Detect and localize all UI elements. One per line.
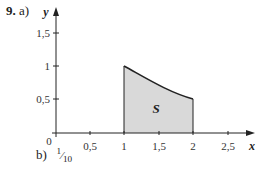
- part-b: b) 1⁄10: [36, 146, 72, 164]
- fraction-numerator: 1: [57, 146, 62, 156]
- y-tick-1-5: 1,5: [36, 27, 50, 39]
- region-label-s: S: [152, 101, 159, 116]
- x-tick-2: 2: [190, 140, 196, 152]
- x-tick-0-5: 0,5: [83, 140, 97, 152]
- x-tick-1: 1: [121, 140, 127, 152]
- x-tick-2-5: 2,5: [221, 140, 235, 152]
- part-b-label: b): [36, 147, 47, 162]
- y-axis-label: y: [41, 5, 49, 19]
- fraction-denominator: 10: [63, 154, 72, 164]
- x-axis-arrow-icon: [246, 130, 255, 136]
- part-b-answer: 1⁄10: [57, 149, 73, 161]
- shaded-region-s: [124, 66, 193, 133]
- y-tick-0-5: 0,5: [36, 93, 50, 105]
- y-tick-1: 1: [45, 60, 51, 72]
- x-tick-1-5: 1,5: [152, 140, 166, 152]
- x-axis-label: x: [248, 139, 255, 153]
- y-axis-arrow-icon: [53, 7, 59, 16]
